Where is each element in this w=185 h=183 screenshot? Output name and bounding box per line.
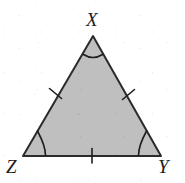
triangle-xyz-shape xyxy=(23,36,161,156)
vertex-label-z: Z xyxy=(6,157,17,176)
geometry-figure-canvas: X Z Y xyxy=(0,0,185,183)
vertex-label-x: X xyxy=(86,10,98,29)
vertex-label-y: Y xyxy=(158,157,169,176)
